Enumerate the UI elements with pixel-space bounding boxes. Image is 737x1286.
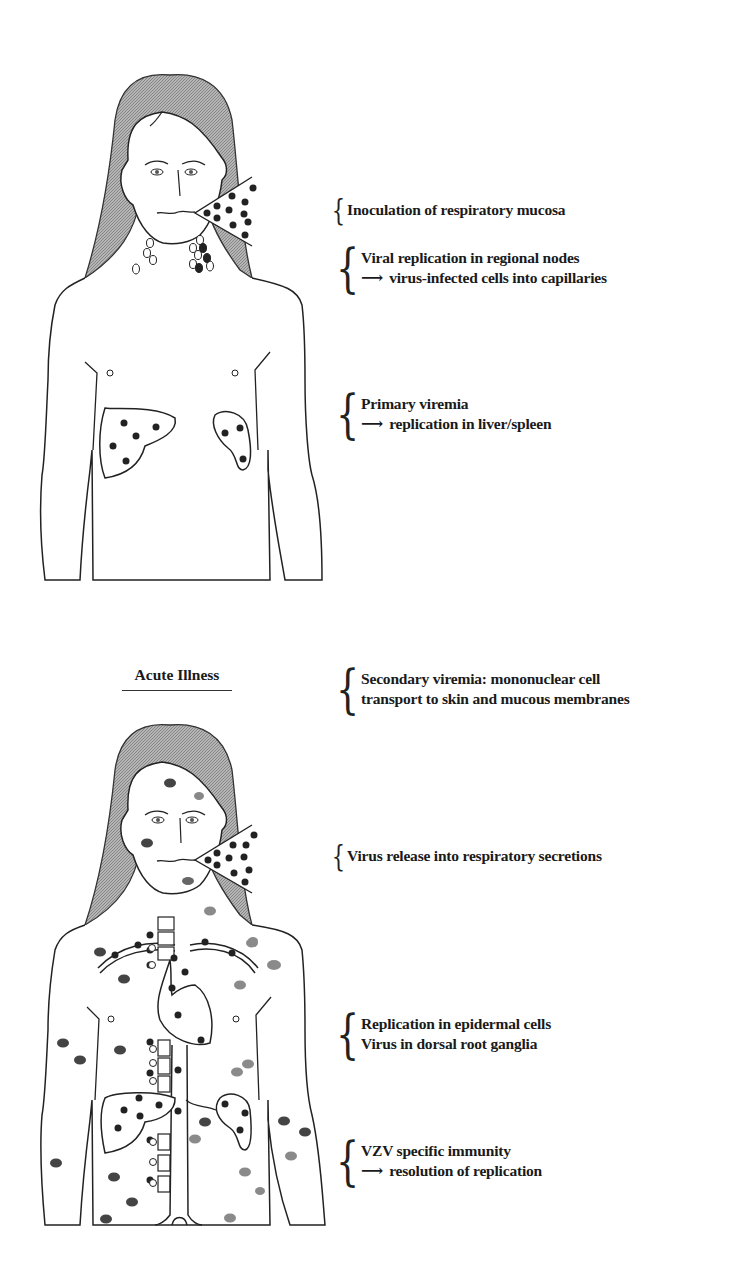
brace-icon: { [336, 242, 359, 294]
annotation-text: Replication in epidermal cells [361, 1014, 551, 1034]
annotation-text: resolution of replication [389, 1162, 542, 1179]
brace-icon: { [336, 1135, 359, 1187]
annotation-text: transport to skin and mucous membranes [361, 689, 629, 709]
annotation-text: virus-infected cells into capillaries [389, 269, 607, 286]
annotation-text: Viral replication in regional nodes [361, 248, 607, 268]
annotation-text: Virus release into respiratory secretion… [347, 846, 602, 866]
annotation-text: Primary viremia [361, 394, 551, 414]
annotation-text: Inoculation of respiratory mucosa [347, 200, 565, 220]
torso-outline [41, 278, 322, 580]
annotation-text: Virus in dorsal root ganglia [361, 1034, 551, 1054]
brace-icon: { [336, 1008, 359, 1060]
acute-illness-title: Acute Illness [122, 666, 232, 691]
top-body-figure [0, 0, 340, 620]
annotation-epidermal-replication: { Replication in epidermal cells Virus i… [326, 1008, 551, 1060]
annotation-inoculation: { Inoculation of respiratory mucosa [326, 195, 565, 225]
annotation-regional-nodes: { Viral replication in regional nodes ⟶v… [326, 242, 607, 294]
bottom-body-figure [0, 700, 340, 1286]
nipple-right [232, 370, 238, 376]
brace-icon: { [332, 841, 345, 871]
annotation-secondary-viremia: { Secondary viremia: mononuclear cell tr… [326, 663, 630, 715]
annotation-text: replication in liver/spleen [389, 415, 551, 432]
annotation-vzv-immunity: { VZV specific immunity ⟶resolution of r… [326, 1135, 542, 1187]
arrow-right-icon: ⟶ [361, 1161, 383, 1181]
brace-icon: { [336, 388, 359, 440]
nipple-left [107, 370, 113, 376]
annotation-text: Secondary viremia: mononuclear cell [361, 669, 629, 689]
annotation-virus-release: { Virus release into respiratory secreti… [326, 841, 602, 871]
arrow-right-icon: ⟶ [361, 268, 383, 288]
annotation-text: VZV specific immunity [361, 1141, 542, 1161]
brace-icon: { [336, 663, 359, 715]
brace-icon: { [332, 195, 345, 225]
arrow-right-icon: ⟶ [361, 414, 383, 434]
annotation-primary-viremia: { Primary viremia ⟶replication in liver/… [326, 388, 551, 440]
